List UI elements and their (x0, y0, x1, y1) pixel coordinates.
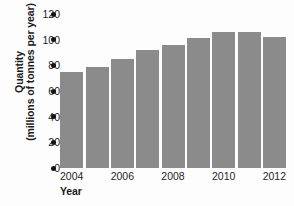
bar (86, 67, 109, 168)
x-axis-tick-label: 2006 (100, 170, 144, 183)
x-axis-tick-label: 2012 (252, 170, 294, 183)
bar-chart: Quantity (millions of tonnes per year) 0… (0, 0, 294, 206)
x-axis-tick-label: 2004 (50, 170, 94, 183)
y-axis-tick-dot (51, 89, 56, 94)
x-axis-tick-label: 2008 (151, 170, 195, 183)
bar (263, 37, 286, 168)
y-axis-tick-dot (51, 63, 56, 68)
y-axis-tick-dot (51, 140, 56, 145)
y-axis-tick-dot (51, 12, 56, 17)
plot-area (59, 14, 287, 168)
x-axis-title: Year (60, 185, 82, 197)
bar (136, 50, 159, 168)
bar (111, 59, 134, 168)
x-axis-tick-label: 2010 (202, 170, 246, 183)
bar (60, 72, 83, 168)
bar (187, 38, 210, 168)
bar (212, 32, 235, 168)
bar (162, 45, 185, 168)
bar (238, 32, 261, 168)
y-axis-title: Quantity (millions of tonnes per year) (10, 0, 40, 148)
